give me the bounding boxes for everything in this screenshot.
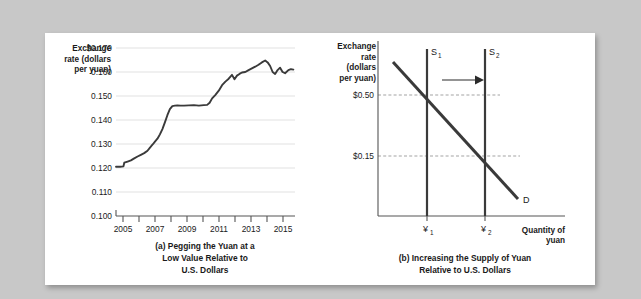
supply-label-s2: S 2 <box>489 47 500 59</box>
xtick-label-y2-sub: 2 <box>488 229 492 236</box>
chart-b-xtick-labels: ¥ 1 ¥ 2 <box>422 224 492 236</box>
ytick-label-4: 0.130 <box>91 139 112 149</box>
chart-a-xticks <box>123 216 283 222</box>
chart-b-caption: (b) Increasing the Supply of Yuan Relati… <box>399 253 531 275</box>
chart-a-caption: (a) Pegging the Yuan at a Low Value Rela… <box>155 241 255 275</box>
chart-a-xtick-labels: 2005 2007 2009 2011 2013 2015 <box>114 224 293 234</box>
supply-label-s1-text: S <box>431 47 437 57</box>
xtick-label-5: 2015 <box>274 224 293 234</box>
ytick-label-5: 0.120 <box>91 163 112 173</box>
caption-line-0: (a) Pegging the Yuan at a <box>155 241 255 251</box>
demand-label: D <box>523 195 530 205</box>
figure-panel-inner: Exchange rate (dollars per yuan) $0.170 … <box>45 33 595 285</box>
chart-b-xlabel: Quantity of yuan <box>522 226 565 245</box>
chart-a-gridlines <box>116 48 295 192</box>
caption-line-0: (b) Increasing the Supply of Yuan <box>399 253 531 263</box>
ylabel-line-1: rate <box>361 53 376 62</box>
ylabel-line-3: per yuan) <box>339 74 376 83</box>
ytick-label-2: 0.150 <box>91 91 112 101</box>
ylabel-line-1: rate (dollars <box>64 55 111 64</box>
supply-label-s2-sub: 2 <box>496 52 500 59</box>
shift-arrow <box>442 76 484 85</box>
chart-a-data-line <box>116 60 293 166</box>
xtick-label-y1-sub: 1 <box>430 229 434 236</box>
chart-a-container: Exchange rate (dollars per yuan) $0.170 … <box>45 33 320 285</box>
caption-line-2: U.S. Dollars <box>181 265 228 275</box>
chart-b-svg: Exchange rate (dollars per yuan) $0.50 $… <box>320 33 595 285</box>
ylabel-line-0: Exchange <box>337 42 376 51</box>
ytick-label-015: $0.15 <box>353 151 374 161</box>
caption-line-1: Relative to U.S. Dollars <box>419 265 511 275</box>
xtick-label-y2: ¥ <box>480 224 487 234</box>
ytick-label-1: 0.160 <box>91 67 112 77</box>
supply-label-s2-text: S <box>489 47 495 57</box>
xtick-label-y1: ¥ <box>422 224 429 234</box>
xtick-label-4: 2013 <box>242 224 261 234</box>
ytick-label-3: 0.140 <box>91 115 112 125</box>
demand-curve <box>393 62 518 199</box>
caption-line-1: Low Value Relative to <box>162 253 248 263</box>
ytick-label-0: $0.170 <box>86 43 112 53</box>
ytick-label-7: 0.100 <box>91 211 112 221</box>
supply-label-s1-sub: 1 <box>438 52 442 59</box>
ytick-label-6: 0.110 <box>92 187 113 197</box>
xtick-label-3: 2011 <box>210 224 228 234</box>
xtick-label-0: 2005 <box>114 224 133 234</box>
chart-a-svg: Exchange rate (dollars per yuan) $0.170 … <box>45 33 320 285</box>
xtick-label-1: 2007 <box>146 224 165 234</box>
shift-arrow-head <box>475 76 484 85</box>
xlabel-line-0: Quantity of <box>522 226 565 235</box>
chart-b-container: Exchange rate (dollars per yuan) $0.50 $… <box>320 33 595 285</box>
supply-label-s1: S 1 <box>431 47 442 59</box>
chart-b-ylabel: Exchange rate (dollars per yuan) <box>337 42 376 83</box>
xtick-label-2: 2009 <box>178 224 197 234</box>
figure-panel: Exchange rate (dollars per yuan) $0.170 … <box>45 33 595 285</box>
chart-a-ytick-labels: $0.170 0.160 0.150 0.140 0.130 0.120 0.1… <box>86 43 112 221</box>
xlabel-line-1: yuan <box>546 236 565 245</box>
ylabel-line-2: (dollars <box>346 63 376 72</box>
ytick-label-050: $0.50 <box>353 90 374 100</box>
